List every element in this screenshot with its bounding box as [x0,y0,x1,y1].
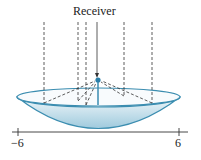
receiver-icon [95,77,100,82]
x-axis [12,128,188,136]
axis-max-label: 6 [175,136,181,151]
parabolic-dish-diagram [0,0,201,160]
receiver-label: Receiver [73,4,116,19]
axis-min-label: −6 [11,136,24,151]
